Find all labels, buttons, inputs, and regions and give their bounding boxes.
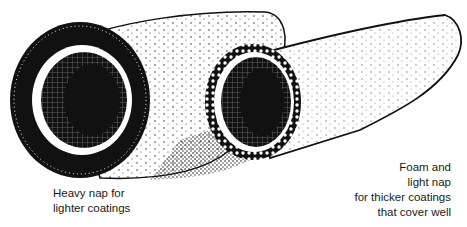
caption-line: Heavy nap for	[53, 186, 130, 201]
caption-line: that cover well	[354, 205, 451, 220]
caption-line: lighter coatings	[53, 201, 130, 216]
caption-foam-light-nap: Foam and light nap for thicker coatings …	[354, 160, 451, 220]
caption-line: Foam and	[354, 160, 451, 175]
caption-line: for thicker coatings	[354, 190, 451, 205]
caption-line: light nap	[354, 175, 451, 190]
caption-heavy-nap: Heavy nap for lighter coatings	[53, 186, 130, 216]
